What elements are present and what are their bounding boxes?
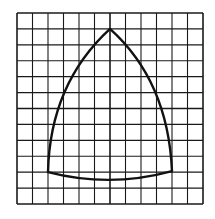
grid-lines	[17, 13, 203, 204]
grid-diagram	[0, 0, 215, 219]
